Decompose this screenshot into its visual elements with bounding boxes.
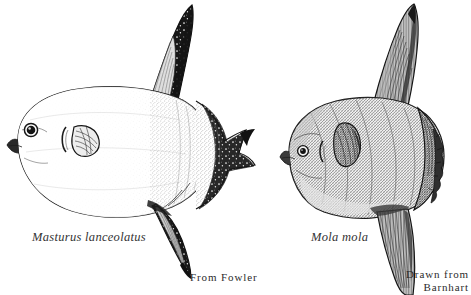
illustration-plate: Masturus lanceolatus From Fowler Mola mo… [0,0,471,295]
species-label-left: Masturus lanceolatus [32,230,146,245]
right-eye [298,146,309,157]
right-pectoral-fin [334,123,361,167]
credit-label-left: From Fowler [190,271,258,284]
figure-mola-mola [0,0,471,295]
credit-label-right: Drawn from Barnhart [406,268,469,294]
credit-line-2: Barnhart [406,281,469,294]
species-label-right: Mola mola [311,230,368,245]
credit-line-1: Drawn from [406,268,469,280]
